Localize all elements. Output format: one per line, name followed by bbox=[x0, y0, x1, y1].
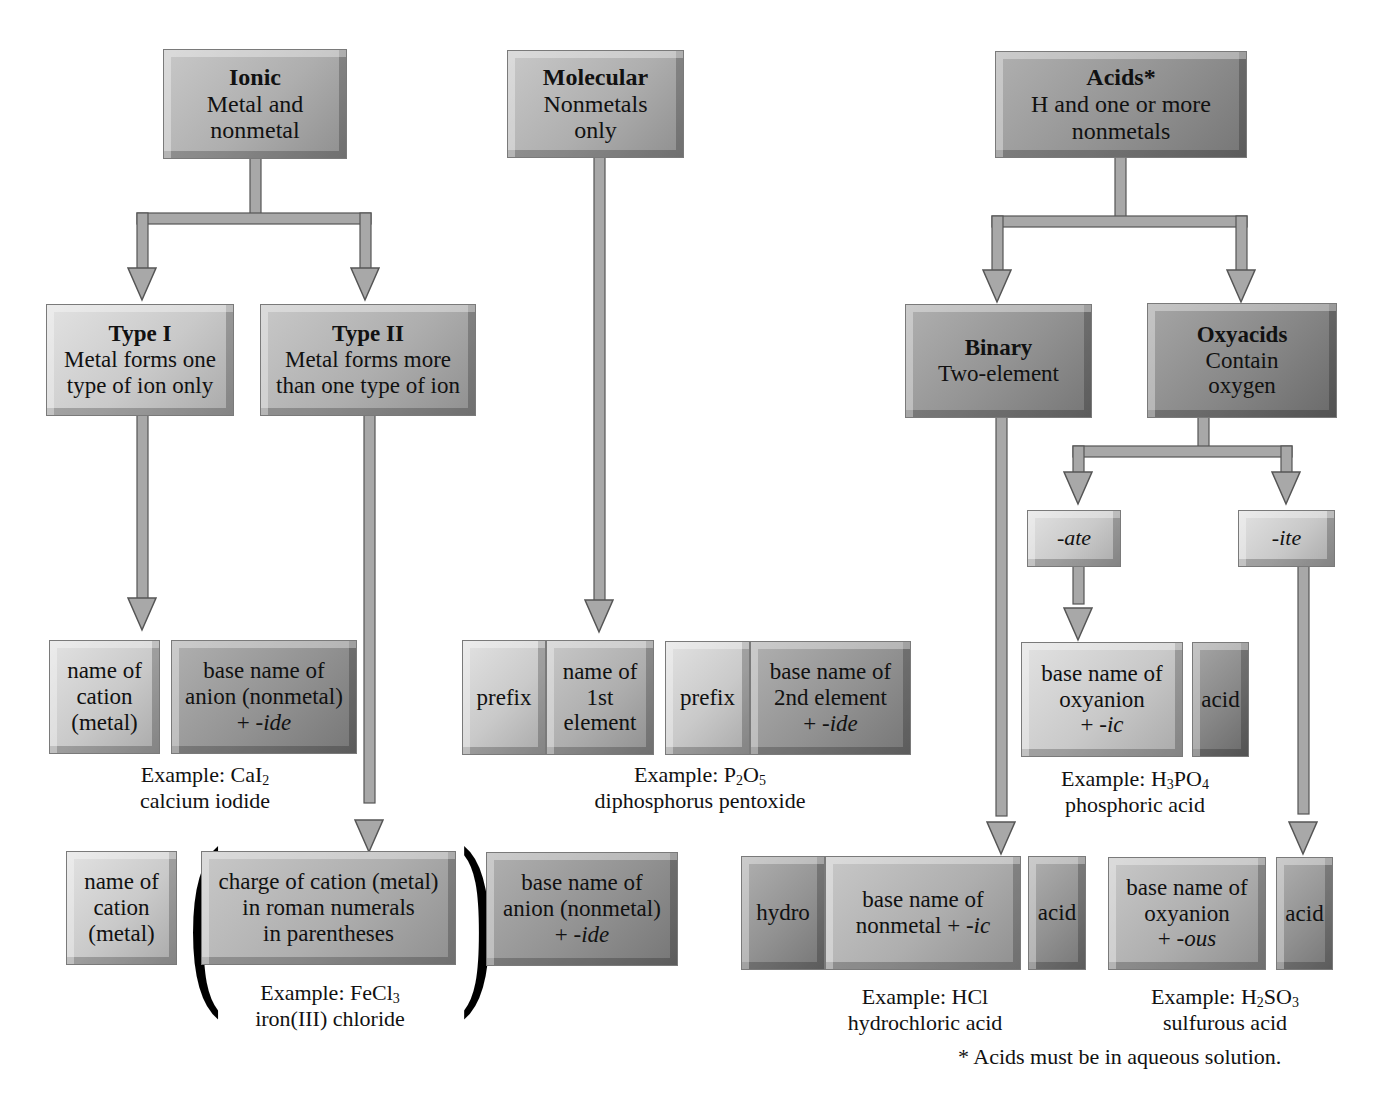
binary-example-name: hydrochloric acid bbox=[815, 1010, 1035, 1036]
ate-base-line2: oxyanion bbox=[1059, 687, 1145, 713]
plus-sign: + bbox=[237, 710, 256, 735]
formula-subscript1: 2 bbox=[1257, 995, 1264, 1010]
acids-desc-line1: H and one or more bbox=[1031, 91, 1211, 118]
type2-desc-line2: than one type of ion bbox=[276, 373, 460, 399]
molecular-prefix1-box: prefix bbox=[462, 640, 546, 755]
anion-line1: base name of bbox=[203, 658, 324, 684]
oxyacids-title: Oxyacids bbox=[1197, 322, 1288, 348]
acids-footnote: * Acids must be in aqueous solution. bbox=[958, 1044, 1281, 1070]
type1-desc-line1: Metal forms one bbox=[64, 347, 216, 373]
hydro-label: hydro bbox=[756, 900, 810, 926]
example-label: Example: bbox=[260, 980, 350, 1005]
prefix1-label: prefix bbox=[477, 685, 532, 711]
ite-base-line3: + -ous bbox=[1158, 926, 1216, 952]
type1-example: Example: CaI2 calcium iodide bbox=[100, 762, 310, 815]
ate-example: Example: H3PO4 phosphoric acid bbox=[1030, 766, 1240, 819]
charge-line2: in roman numerals bbox=[242, 895, 414, 921]
type1-anion-box: base name of anion (nonmetal) + -ide bbox=[171, 640, 357, 754]
ate-base-box: base name of oxyanion + -ic bbox=[1021, 642, 1183, 757]
type1-box: Type I Metal forms one type of ion only bbox=[46, 304, 234, 416]
example-label: Example: bbox=[1151, 984, 1241, 1009]
ionic-box: Ionic Metal and nonmetal bbox=[163, 49, 347, 159]
type2-example: Example: FeCl3 iron(III) chloride bbox=[225, 980, 435, 1033]
formula-part2: PO bbox=[1174, 766, 1202, 791]
binary-example-formula: Example: HCl bbox=[815, 984, 1035, 1010]
ite-example: Example: H2SO3 sulfurous acid bbox=[1120, 984, 1330, 1037]
oxyacids-desc-line1: Contain bbox=[1206, 348, 1279, 374]
ide-suffix: -ide bbox=[255, 710, 291, 735]
molecular-example-name: diphosphorus pentoxide bbox=[570, 788, 830, 814]
type2-example-name: iron(III) chloride bbox=[225, 1006, 435, 1032]
anion-line3: + -ide bbox=[555, 922, 610, 948]
second-element-line1: base name of bbox=[770, 659, 891, 685]
cation-line1: name of bbox=[67, 658, 142, 684]
ite-base-line2: oxyanion bbox=[1144, 901, 1230, 927]
ate-label: -ate bbox=[1057, 526, 1091, 551]
second-element-line3: + -ide bbox=[803, 711, 858, 737]
molecular-desc-line1: Nonmetals bbox=[544, 91, 648, 118]
acids-desc-line2: nonmetals bbox=[1072, 118, 1171, 145]
ite-acid-box: acid bbox=[1276, 857, 1333, 970]
formula-main: CaI bbox=[231, 762, 263, 787]
binary-base-line1: base name of bbox=[862, 887, 983, 913]
ic-suffix: -ic bbox=[966, 913, 990, 938]
ide-suffix: -ide bbox=[573, 922, 609, 947]
second-element-line2: 2nd element bbox=[774, 685, 887, 711]
acid-label: acid bbox=[1038, 900, 1076, 926]
acids-box: Acids* H and one or more nonmetals bbox=[995, 51, 1247, 158]
first-element-line1: name of bbox=[563, 659, 638, 685]
binary-example: Example: HCl hydrochloric acid bbox=[815, 984, 1035, 1037]
charge-line3: in parentheses bbox=[263, 921, 394, 947]
ite-label: -ite bbox=[1272, 526, 1301, 551]
cation-line3: (metal) bbox=[88, 921, 154, 947]
formula-part1: H bbox=[1151, 766, 1167, 791]
type1-example-name: calcium iodide bbox=[100, 788, 310, 814]
hydro-box: hydro bbox=[741, 856, 825, 970]
formula-main: FeCl bbox=[350, 980, 393, 1005]
molecular-box: Molecular Nonmetals only bbox=[507, 50, 684, 158]
first-element-line3: element bbox=[564, 710, 637, 736]
binary-acid-box: acid bbox=[1028, 856, 1086, 970]
molecular-first-element-box: name of 1st element bbox=[546, 640, 654, 755]
anion-line1: base name of bbox=[521, 870, 642, 896]
cation-line2: cation bbox=[76, 684, 132, 710]
type2-anion-box: base name of anion (nonmetal) + -ide bbox=[486, 852, 678, 966]
oxyacids-desc-line2: oxygen bbox=[1208, 373, 1276, 399]
formula-subscript: 3 bbox=[393, 991, 400, 1006]
ite-box: -ite bbox=[1238, 510, 1335, 567]
binary-base-line2: nonmetal + -ic bbox=[856, 913, 990, 939]
example-label: Example: bbox=[862, 984, 952, 1009]
example-label: Example: bbox=[141, 762, 231, 787]
formula-subscript2: 4 bbox=[1202, 777, 1209, 792]
type1-desc-line2: type of ion only bbox=[67, 373, 213, 399]
cation-line2: cation bbox=[93, 895, 149, 921]
type1-example-formula: Example: CaI2 bbox=[100, 762, 310, 788]
ionic-desc-line1: Metal and bbox=[207, 91, 304, 118]
cation-line3: (metal) bbox=[71, 710, 137, 736]
ite-base-box: base name of oxyanion + -ous bbox=[1108, 857, 1266, 970]
type2-desc-line1: Metal forms more bbox=[285, 347, 451, 373]
type2-box: Type II Metal forms more than one type o… bbox=[260, 304, 476, 416]
ionic-title: Ionic bbox=[229, 64, 281, 91]
prefix2-label: prefix bbox=[680, 685, 735, 711]
anion-line3: + -ide bbox=[237, 710, 292, 736]
formula-part1: P bbox=[724, 762, 736, 787]
formula-subscript2: 5 bbox=[759, 773, 766, 788]
ite-example-name: sulfurous acid bbox=[1120, 1010, 1330, 1036]
formula-part2: O bbox=[743, 762, 759, 787]
nonmetal-plus: nonmetal + bbox=[856, 913, 966, 938]
ate-example-name: phosphoric acid bbox=[1030, 792, 1240, 818]
ous-suffix: -ous bbox=[1177, 926, 1217, 951]
ate-base-line1: base name of bbox=[1041, 661, 1162, 687]
formula-part2: SO bbox=[1264, 984, 1292, 1009]
ate-acid-box: acid bbox=[1192, 642, 1249, 757]
molecular-desc-line2: only bbox=[574, 117, 617, 144]
anion-line2: anion (nonmetal) bbox=[185, 684, 343, 710]
molecular-title: Molecular bbox=[543, 64, 648, 91]
ide-suffix: -ide bbox=[822, 711, 858, 736]
ite-base-line1: base name of bbox=[1126, 875, 1247, 901]
formula-part1: H bbox=[1241, 984, 1257, 1009]
formula: HCl bbox=[952, 984, 989, 1009]
binary-base-box: base name of nonmetal + -ic bbox=[825, 856, 1021, 970]
ic-suffix: -ic bbox=[1099, 712, 1123, 737]
